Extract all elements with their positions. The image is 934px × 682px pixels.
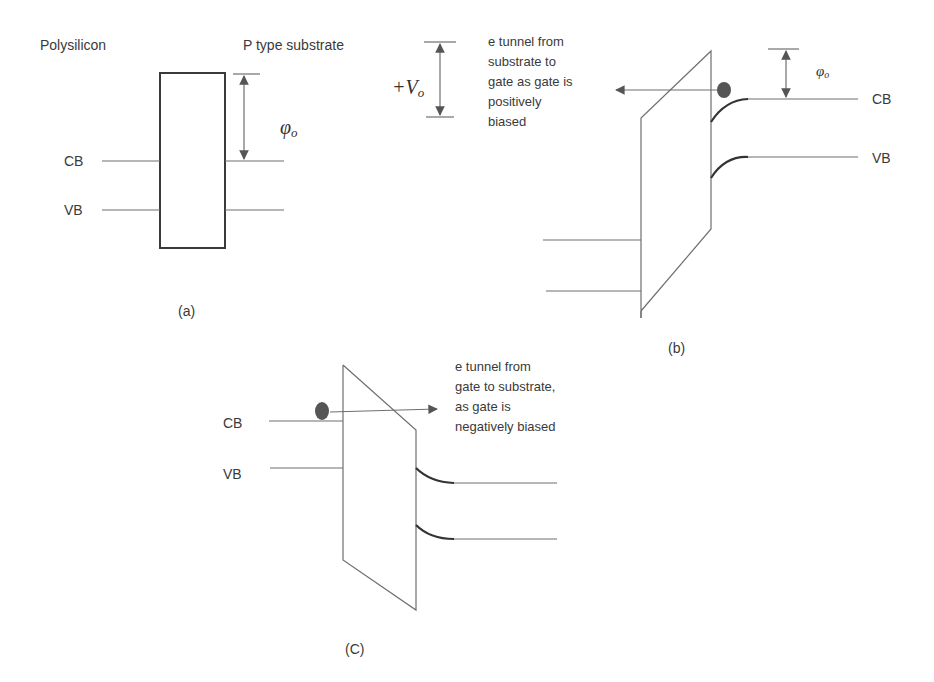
vb-label-a: VB: [64, 202, 83, 218]
panel-a: Polysilicon P type substrate CB VB φo (a…: [40, 37, 344, 319]
band-diagram-figure: Polysilicon P type substrate CB VB φo (a…: [0, 0, 934, 682]
caption-c: (C): [345, 641, 364, 657]
caption-a: (a): [178, 303, 195, 319]
tunnel-note-b: e tunnel from substrate to gate as gate …: [488, 34, 576, 129]
cb-label-c: CB: [223, 415, 242, 431]
phi-o-label-a: φo: [280, 116, 298, 140]
cb-band-bend-b: [711, 99, 748, 122]
tilted-oxide-barrier-b: [641, 51, 711, 318]
oxide-barrier-box: [160, 73, 225, 248]
diagram-canvas: Polysilicon P type substrate CB VB φo (a…: [0, 0, 934, 682]
phi-o-label-b: φo: [816, 63, 829, 80]
vb-band-bend-c: [416, 525, 454, 539]
panel-c: CB VB e tunnel from gate to substrate, a…: [223, 359, 559, 657]
p-type-substrate-label: P type substrate: [243, 37, 344, 53]
cb-label-b: CB: [872, 91, 891, 107]
vb-band-bend-b: [711, 157, 748, 178]
tunnel-note-c: e tunnel from gate to substrate, as gate…: [455, 359, 559, 434]
cb-label-a: CB: [64, 153, 83, 169]
caption-b: (b): [668, 340, 685, 356]
plus-vo-label: +Vo: [392, 76, 425, 100]
electron-dot-icon: [717, 82, 731, 98]
cb-band-bend-c: [416, 468, 454, 483]
electron-dot-icon: [315, 402, 329, 420]
polysilicon-label: Polysilicon: [40, 37, 106, 53]
tilted-oxide-barrier-c: [343, 365, 416, 610]
tunnel-arrow-c: [330, 409, 437, 412]
panel-b: +Vo e tunnel from substrate to gate as g…: [392, 34, 891, 356]
vb-label-b: VB: [872, 150, 891, 166]
vb-label-c: VB: [223, 466, 242, 482]
